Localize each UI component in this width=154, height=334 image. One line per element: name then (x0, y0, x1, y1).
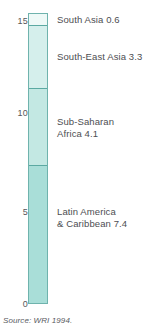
bar-segment-sub-saharan-africa (29, 89, 47, 166)
segment-label-sub-saharan-africa: Sub-Saharan Africa 4.1 (57, 116, 114, 139)
stacked-bar (28, 13, 48, 304)
y-axis-tick-5: 5 (4, 208, 28, 217)
y-axis-tick-15: 15 (4, 17, 28, 26)
source-note: Source: WRI 1994. (3, 316, 72, 326)
bar-segment-latin-america-caribbean (29, 166, 47, 304)
bar-segment-south-asia (29, 14, 47, 26)
segment-label-south-asia: South Asia 0.6 (57, 14, 120, 26)
stacked-bar-chart-figure: 15 10 5 0 South Asia 0.6 South-East Asia… (0, 0, 154, 334)
segment-label-south-east-asia: South-East Asia 3.3 (57, 51, 142, 63)
bar-segment-south-east-asia (29, 26, 47, 89)
plot-area: 15 10 5 0 South Asia 0.6 South-East Asia… (0, 0, 154, 310)
y-axis-tick-10: 10 (4, 109, 28, 118)
segment-label-latin-america-caribbean: Latin America & Caribbean 7.4 (57, 206, 127, 229)
y-axis-tick-0: 0 (4, 300, 28, 309)
